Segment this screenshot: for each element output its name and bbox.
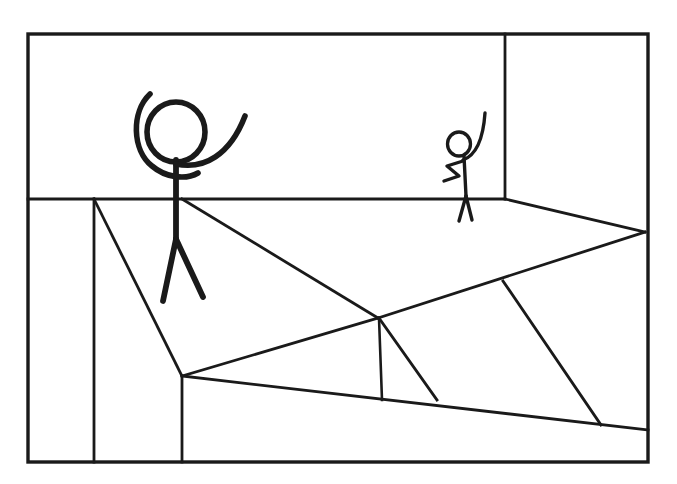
line-drawing-canvas <box>0 0 677 484</box>
sketch-root <box>0 0 677 484</box>
canvas-background <box>0 0 677 484</box>
